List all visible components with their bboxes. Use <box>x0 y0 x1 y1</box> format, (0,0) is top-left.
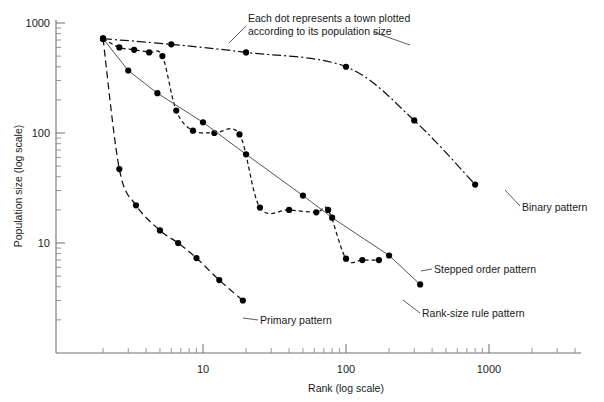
data-point <box>154 90 160 96</box>
note-leader-line <box>229 26 246 43</box>
data-point <box>325 207 331 213</box>
data-point <box>116 44 122 50</box>
x-tick-label-100: 100 <box>337 363 355 375</box>
data-point <box>100 36 106 42</box>
binary-leader-line <box>505 190 520 206</box>
data-point <box>125 67 131 73</box>
label-primary-pattern: Primary pattern <box>260 314 332 326</box>
data-point <box>411 117 417 123</box>
data-point <box>190 128 196 134</box>
series-line <box>103 39 243 301</box>
y-tick-label-100: 100 <box>32 127 50 139</box>
annotation-line-2: according to its population size <box>248 25 392 37</box>
data-point <box>243 151 249 157</box>
x-tick-label-1000: 1000 <box>477 363 501 375</box>
data-point <box>193 255 199 261</box>
data-point <box>300 192 306 198</box>
data-point <box>159 53 165 59</box>
series-binary-pattern <box>100 36 478 188</box>
x-tick-label-10: 10 <box>197 363 209 375</box>
x-axis-ticks <box>103 344 575 353</box>
data-point <box>116 166 122 172</box>
data-point <box>376 257 382 263</box>
series-line <box>103 39 420 285</box>
data-point <box>175 240 181 246</box>
data-point <box>286 207 292 213</box>
series-stepped-order-pattern <box>100 36 382 264</box>
data-point <box>257 204 263 210</box>
data-point <box>146 49 152 55</box>
data-point <box>240 297 246 303</box>
data-point <box>313 209 319 215</box>
data-point <box>157 227 163 233</box>
data-point <box>343 256 349 262</box>
data-point <box>216 277 222 283</box>
y-tick-label-10: 10 <box>38 237 50 249</box>
annotation-line-1: Each dot represents a town plotted <box>248 12 410 24</box>
data-point <box>200 119 206 125</box>
stepped-leader-line <box>421 269 432 271</box>
data-point <box>472 181 478 187</box>
y-axis-ticks <box>56 23 65 320</box>
chart-container: 1000 100 10 10 100 1000 Rank (log scale)… <box>0 0 604 402</box>
data-point <box>243 49 249 55</box>
data-point <box>173 107 179 113</box>
x-axis-title: Rank (log scale) <box>308 382 384 394</box>
axis-lines <box>56 20 581 353</box>
label-stepped-order-pattern: Stepped order pattern <box>434 263 536 275</box>
data-point <box>386 252 392 258</box>
data-point <box>133 202 139 208</box>
y-axis-title: Population size (log scale) <box>12 125 24 248</box>
data-point <box>359 257 365 263</box>
data-point <box>329 215 335 221</box>
data-point <box>131 47 137 53</box>
series-primary-pattern <box>100 36 246 304</box>
ranksize-leader-line <box>403 300 420 313</box>
series-line <box>103 39 475 185</box>
data-point <box>168 41 174 47</box>
label-binary-pattern: Binary pattern <box>522 201 588 213</box>
series-rank-size-rule-pattern <box>100 36 423 288</box>
label-rank-size-rule-pattern: Rank-size rule pattern <box>422 307 525 319</box>
primary-leader-line <box>243 318 258 320</box>
y-tick-label-1000: 1000 <box>26 17 50 29</box>
data-point <box>343 64 349 70</box>
data-point <box>236 131 242 137</box>
data-point <box>417 281 423 287</box>
rank-size-chart: 1000 100 10 10 100 1000 Rank (log scale)… <box>0 0 604 402</box>
